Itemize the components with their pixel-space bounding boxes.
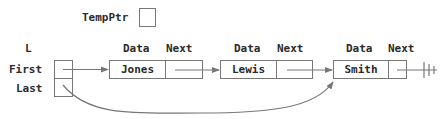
last-to-smith-arrow <box>63 82 333 113</box>
null-terminator-icon <box>397 62 437 78</box>
connectors <box>0 0 448 119</box>
